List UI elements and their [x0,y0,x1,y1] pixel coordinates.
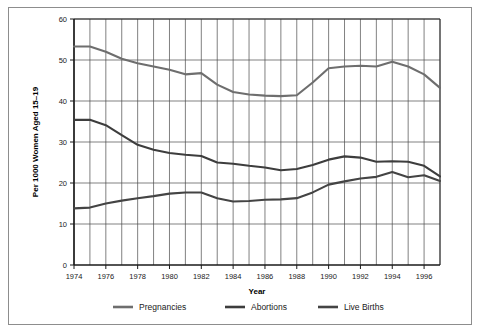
x-tick-label: 1992 [352,272,369,281]
x-axis-title: Year [249,287,266,296]
x-tick-label: 1986 [257,272,274,281]
y-axis-title: Per 1000 Women Aged 15–19 [31,86,40,197]
y-tick-label: 50 [59,56,67,65]
series-line-pregnancies [74,46,440,96]
x-tick-label: 1988 [288,272,305,281]
y-axis-ticks: 0102030405060 [59,15,74,270]
legend-label-abortions: Abortions [251,302,287,312]
y-tick-label: 30 [59,138,67,147]
gridlines [74,19,440,265]
x-tick-label: 1996 [416,272,433,281]
x-tick-label: 1994 [384,272,401,281]
x-tick-label: 1990 [320,272,337,281]
data-series-group [74,46,440,208]
x-tick-label: 1974 [66,272,83,281]
x-axis-ticks: 1974197619781980198219841986198819901992… [66,265,433,281]
series-line-abortions [74,120,440,177]
legend-label-live-births: Live Births [344,302,384,312]
x-tick-label: 1976 [97,272,114,281]
chart-figure: 0102030405060197419761978198019821984198… [0,0,481,333]
y-tick-label: 40 [59,97,67,106]
x-tick-label: 1978 [129,272,146,281]
line-chart: 0102030405060197419761978198019821984198… [0,0,481,333]
legend-label-pregnancies: Pregnancies [139,302,186,312]
chart-legend: PregnanciesAbortionsLive Births [113,302,384,312]
y-tick-label: 60 [59,15,67,24]
x-tick-label: 1980 [161,272,178,281]
x-tick-label: 1982 [193,272,210,281]
series-line-live-births [74,172,440,208]
y-tick-label: 20 [59,179,67,188]
y-tick-label: 10 [59,220,67,229]
y-tick-label: 0 [63,261,67,270]
x-tick-label: 1984 [225,272,242,281]
